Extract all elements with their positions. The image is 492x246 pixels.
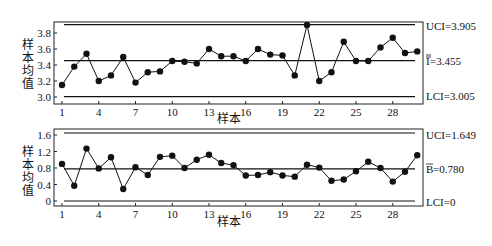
data-point [414,152,420,158]
data-point [59,82,65,88]
x-tick-label: 25 [351,208,363,220]
data-point [316,78,322,84]
data-point [328,69,334,75]
center-line-label: B =0.780 [426,163,464,175]
ucl-label: UCI=3.905 [426,20,476,32]
data-point [71,183,77,189]
data-point [304,162,310,168]
plot-frame [54,129,423,206]
data-point [390,178,396,184]
ylabel-char: 均 [22,64,34,78]
data-point [169,58,175,64]
y-tick-label: 3.0 [37,91,51,103]
data-point [181,59,187,65]
data-point [341,176,347,182]
y-tick-label: 1.2 [37,146,51,158]
data-point [341,39,347,45]
x-axis-label: 样本 [217,111,241,126]
data-point [120,186,126,192]
data-point [83,145,89,151]
center-value: =0.780 [433,163,464,175]
data-point [292,173,298,179]
x-tick-label: 1 [59,106,65,118]
x-tick-label: 4 [96,106,102,118]
x-tick-label: 28 [387,208,399,220]
data-series [59,22,421,88]
ucl-label: UCI=1.649 [426,129,476,141]
data-point [292,72,298,78]
x-tick-label: 19 [277,208,289,220]
series-line [62,25,417,85]
data-point [206,46,212,52]
data-point [96,165,102,171]
data-point [132,79,138,85]
range-control-chart: 00.40.81.21.6 14710131619222528 样 本 均 值 … [22,129,476,229]
control-charts-svg: 3.03.23.43.63.8 14710131619222528 样 本 均 … [0,0,492,246]
y-tick-label: 0.4 [37,179,51,191]
data-point [243,172,249,178]
data-point [218,160,224,166]
x-tick-label: 4 [96,208,102,220]
ylabel-char: 本 [22,51,34,65]
data-point [279,52,285,58]
lcl-label: LCI=3.005 [426,90,475,102]
data-point [365,159,371,165]
y-tick-label: 3.8 [37,27,51,39]
data-point [353,168,359,174]
lcl-label: LCI=0 [426,196,456,208]
data-point [157,154,163,160]
data-point [181,165,187,171]
data-point [108,72,114,78]
data-point [71,63,77,69]
data-point [304,22,310,28]
data-point [402,169,408,175]
y-axis-label: 样 本 均 值 [22,37,34,91]
data-point [194,157,200,163]
data-point [96,78,102,84]
data-point [145,172,151,178]
data-point [255,172,261,178]
y-axis-label: 样 本 均 值 [22,144,34,198]
center-value: =3.455 [430,55,461,67]
data-point [120,54,126,60]
x-axis-label: 样本 [217,214,241,229]
control-chart-figure: 3.03.23.43.63.8 14710131619222528 样 本 均 … [0,0,492,246]
x-tick-label: 22 [314,106,325,118]
x-tick-label: 7 [133,208,139,220]
ylabel-char: 样 [22,37,34,52]
data-point [279,172,285,178]
y-tick-label: 3.6 [37,43,51,55]
x-tick-label: 10 [167,106,179,118]
x-tick-label: 16 [240,106,252,118]
x-tick-label: 19 [277,106,289,118]
mean-control-chart: 3.03.23.43.63.8 14710131619222528 样 本 均 … [22,20,476,126]
data-point [414,48,420,54]
data-point [206,152,212,158]
data-point [108,154,114,160]
data-point [194,60,200,66]
y-tick-label: 3.4 [37,59,51,71]
data-point [59,161,65,167]
data-point [145,69,151,75]
ylabel-char: 样 [22,144,34,159]
x-tick-label: 13 [204,208,216,220]
ylabel-char: 值 [22,76,34,91]
ylabel-char: 均 [22,171,34,185]
data-point [83,51,89,57]
center-line-label: I =3.455 [426,55,461,67]
y-tick-label: 3.2 [37,75,51,87]
data-point [267,169,273,175]
data-point [316,164,322,170]
data-point [218,53,224,59]
y-tick-label: 0.8 [37,162,51,174]
data-point [169,152,175,158]
data-point [353,58,359,64]
data-point [243,58,249,64]
data-point [402,50,408,56]
data-point [230,53,236,59]
data-point [267,51,273,57]
data-point [390,35,396,41]
data-point [255,46,261,52]
y-tick-label: 1.6 [37,129,51,141]
data-point [377,165,383,171]
